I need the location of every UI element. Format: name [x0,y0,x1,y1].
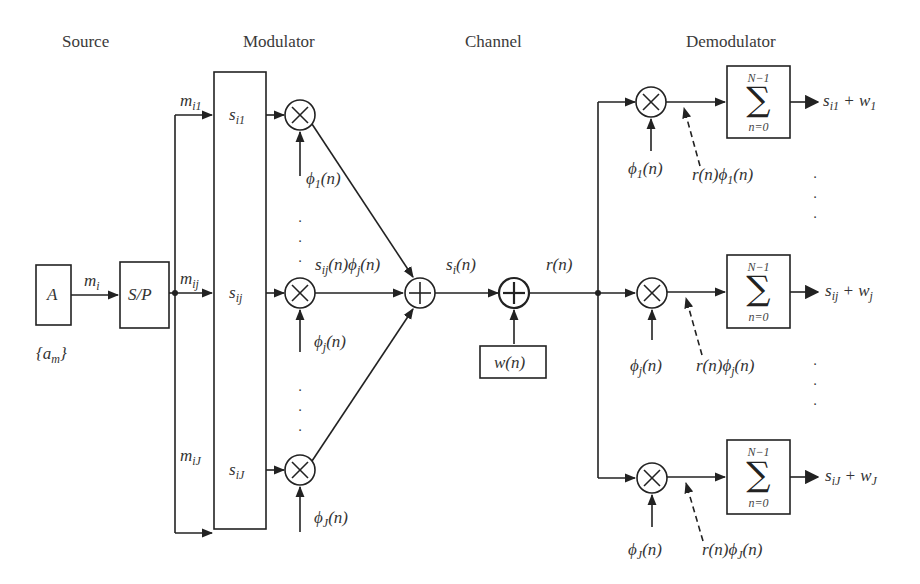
si-base: s [446,255,453,274]
multiplier-J [285,455,315,485]
out-plus: + w [840,466,871,485]
phi-arg: (n) [643,159,663,178]
out-s-sub: iJ [832,474,841,488]
s-base: s [229,105,236,124]
s-sub: ij [236,291,243,305]
demod-multiplier-1 [636,87,666,117]
m-base: m [180,91,192,110]
prod-a: r(n)ϕ [692,165,727,184]
prod-a: s [315,255,322,274]
section-modulator: Modulator [243,33,315,50]
s-sub: i1 [236,113,245,127]
prod-c: (n) [360,255,380,274]
phi-base: ϕ [306,169,315,188]
m-sub: iJ [192,454,201,468]
mi-label: mi [84,272,100,292]
junction-dot [172,290,178,296]
out-plus: + w [838,281,869,300]
s-label-1: si1 [229,106,245,126]
sum-lower-limit: n=0 [727,496,790,511]
phi-base: ϕ [314,332,323,351]
demod-phi-J: ϕJ(n) [628,541,662,561]
s-base: s [229,460,236,479]
section-source: Source [62,33,109,50]
prod-c: (n) [735,356,755,375]
output-1: si1 + w1 [823,92,876,112]
m-sub: i1 [192,99,201,113]
m-base: m [180,446,192,465]
s-label-J: siJ [229,461,244,481]
prod-a: r(n)ϕ [696,356,731,375]
summer [405,278,435,308]
prod-b: (n)ϕ [328,255,357,274]
multiplier-1 [285,100,315,130]
phi-arg: (n) [642,540,662,559]
set-open: {a [36,344,51,363]
sp-box-label: S/P [128,286,152,303]
s-base: s [229,283,236,302]
sum-lower-limit: n=0 [727,310,790,325]
out-w-sub: 1 [870,99,876,113]
phi-arg: (n) [326,332,346,351]
received-label: r(n) [546,256,572,273]
phi-base: ϕ [628,159,637,178]
sum-lower-limit: n=0 [727,120,790,135]
out-plus: + w [839,91,870,110]
si-label: si(n) [446,256,476,276]
phi-arg: (n) [321,169,341,188]
phi-base: ϕ [628,540,637,559]
demod-multiplier-J [637,463,667,493]
demod-phi-j: ϕj(n) [630,357,662,377]
output-j: sij + wj [825,282,873,302]
product-label: sij(n)ϕj(n) [315,256,380,276]
s-sub: iJ [236,468,245,482]
out-w-sub: J [872,474,877,488]
multiplier-j [285,278,315,308]
output-J: siJ + wJ [825,467,877,487]
prod-c: (n) [733,165,753,184]
phi-label-1: ϕ1(n) [306,170,341,190]
out-w-sub: j [870,289,873,303]
section-channel: Channel [465,33,522,50]
m-sub: ij [192,277,199,291]
demod-product-1: r(n)ϕ1(n) [692,166,753,186]
phi-base: ϕ [314,508,323,527]
demod-product-J: r(n)ϕJ(n) [702,541,762,561]
s-label-j: sij [229,284,242,304]
out-s: s [825,466,832,485]
m-base: m [180,269,192,288]
out-s: s [825,281,832,300]
sigma-icon: ∑ [727,271,790,305]
section-demodulator: Demodulator [686,33,776,50]
set-sub: m [51,352,60,366]
phi-label-j: ϕj(n) [314,333,346,353]
ellipsis-lower: ··· [297,381,303,441]
m-label-j: mij [180,270,199,290]
si-arg: (n) [456,255,476,274]
m-label-J: miJ [180,447,201,467]
sigma-icon: ∑ [727,457,790,491]
ellipsis-demod-upper: ··· [812,168,818,228]
phi-base: ϕ [630,356,639,375]
channel-adder [499,278,529,308]
mi-sub: i [96,279,99,293]
prod-c: (n) [743,540,763,559]
phi-arg: (n) [328,508,348,527]
junction-dot [595,290,601,296]
demod-multiplier-j [637,278,667,308]
out-s-sub: i1 [830,99,839,113]
ellipsis-upper: ··· [297,212,303,272]
demod-phi-1: ϕ1(n) [628,160,663,180]
ellipsis-demod-lower: ··· [812,355,818,415]
out-s: s [823,91,830,110]
prod-a: r(n)ϕ [702,540,737,559]
sigma-icon: ∑ [727,82,790,116]
source-box-label: A [47,286,57,303]
source-alphabet: {am} [36,345,67,365]
demod-product-j: r(n)ϕj(n) [696,357,754,377]
m-label-1: mi1 [180,92,202,112]
set-close: } [60,344,67,363]
phi-label-J: ϕJ(n) [314,509,348,529]
mi-base: m [84,271,96,290]
phi-arg: (n) [642,356,662,375]
